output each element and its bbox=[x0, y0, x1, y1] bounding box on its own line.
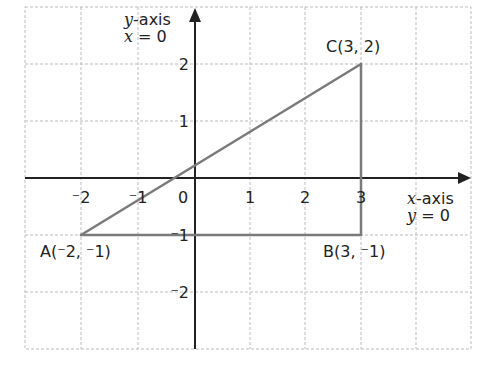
triangle-abc bbox=[81, 64, 361, 235]
y-tick-label: ⁻1 bbox=[170, 226, 189, 245]
coordinate-diagram: ⁻2 ⁻1 0 1 2 3 2 1 ⁻1 ⁻2 y-axis x = 0 x-a… bbox=[0, 0, 500, 371]
x-axis-arrow-icon bbox=[458, 172, 471, 184]
y-tick-label: 1 bbox=[179, 112, 189, 131]
y-axis-eq-var: x bbox=[124, 27, 133, 46]
x-tick-label: 0 bbox=[178, 188, 188, 207]
x-tick-label: 3 bbox=[356, 188, 366, 207]
y-tick-label: ⁻2 bbox=[170, 283, 189, 302]
svg-text:x = 0: x = 0 bbox=[124, 27, 167, 46]
axes bbox=[25, 17, 462, 349]
segment-ac bbox=[81, 64, 361, 235]
y-axis-arrow-icon bbox=[189, 8, 201, 22]
y-tick-label: 2 bbox=[179, 55, 189, 74]
x-tick-label: ⁻1 bbox=[129, 188, 148, 207]
x-axis-label: x-axis y = 0 bbox=[406, 189, 454, 225]
x-tick-labels: ⁻2 ⁻1 0 1 2 3 bbox=[72, 188, 366, 207]
point-label-a: A(⁻2, ⁻1) bbox=[40, 242, 111, 261]
x-tick-label: 1 bbox=[245, 188, 255, 207]
x-axis-eq-rest: = 0 bbox=[416, 206, 450, 225]
x-tick-label: ⁻2 bbox=[72, 188, 91, 207]
point-label-c: C(3, 2) bbox=[326, 37, 380, 56]
point-label-b: B(3, ⁻1) bbox=[323, 242, 385, 261]
svg-text:y = 0: y = 0 bbox=[406, 206, 450, 225]
x-tick-label: 2 bbox=[300, 188, 310, 207]
y-axis-eq-rest: = 0 bbox=[133, 27, 167, 46]
y-axis-label: y-axis x = 0 bbox=[123, 10, 171, 46]
